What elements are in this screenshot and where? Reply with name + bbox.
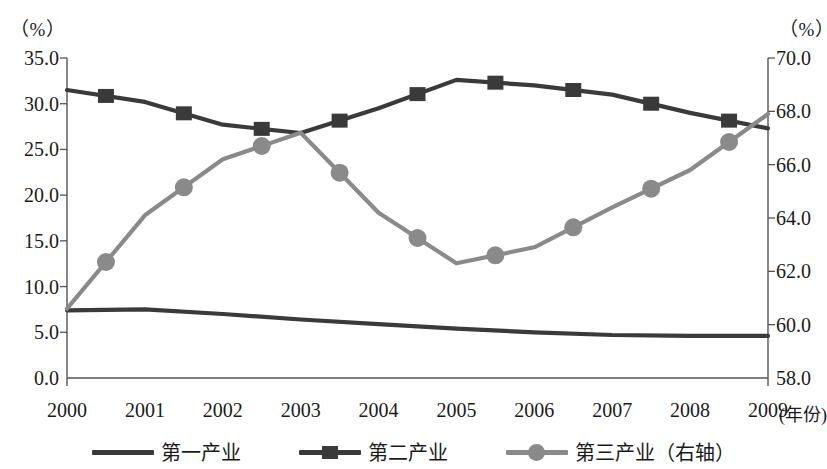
marker-circle: [720, 133, 738, 151]
plot-area: [0, 0, 827, 469]
series-2: [67, 76, 768, 136]
marker-circle: [486, 246, 504, 264]
marker-square: [176, 106, 192, 120]
marker-square: [565, 83, 581, 97]
marker-square: [487, 76, 503, 90]
marker-square: [410, 87, 426, 101]
marker-square: [332, 114, 348, 128]
legend-item-3[interactable]: 第三产业（右轴）: [506, 437, 735, 466]
marker-square: [98, 89, 114, 103]
legend-item-1[interactable]: 第一产业: [92, 437, 241, 466]
marker-circle: [331, 164, 349, 182]
marker-square: [254, 122, 270, 136]
legend-label: 第一产业: [161, 437, 241, 466]
marker-circle: [564, 218, 582, 236]
legend-swatch-square-icon: [299, 444, 361, 460]
series-3: [67, 114, 768, 309]
legend-label: 第三产业（右轴）: [575, 437, 735, 466]
marker-square: [643, 97, 659, 111]
chart-legend: 第一产业第二产业第三产业（右轴）: [0, 434, 827, 469]
legend-swatch-line-icon: [92, 444, 154, 460]
marker-circle: [642, 180, 660, 198]
series-layer: [67, 76, 768, 336]
marker-circle: [253, 137, 271, 155]
line-chart: （%） （%） 35.030.025.020.015.010.05.00.0 7…: [0, 0, 827, 469]
legend-swatch-circle-icon: [506, 444, 568, 460]
series-1: [67, 309, 768, 336]
legend-item-2[interactable]: 第二产业: [299, 437, 448, 466]
legend-label: 第二产业: [368, 437, 448, 466]
marker-circle: [409, 229, 427, 247]
marker-square: [721, 114, 737, 128]
marker-circle: [97, 253, 115, 271]
marker-circle: [175, 178, 193, 196]
